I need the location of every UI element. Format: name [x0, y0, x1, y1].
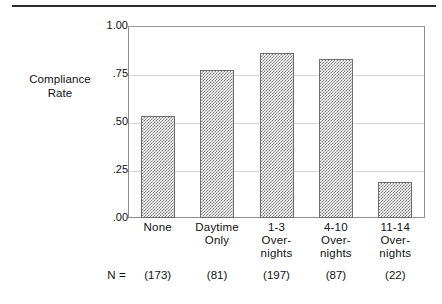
sample-size-value: (197) [247, 268, 306, 282]
x-axis-category-label-line: Over- [366, 234, 425, 247]
x-axis-category-label-line: Only [187, 234, 246, 247]
x-axis-category-label: 1-3Over-nights [247, 221, 306, 261]
bar [378, 182, 412, 218]
sample-size-value: (87) [306, 268, 365, 282]
sample-size-label: N = [84, 268, 126, 282]
bar [319, 59, 353, 218]
sample-size-values: (173)(81)(197)(87)(22) [128, 268, 425, 284]
y-axis-tick-label: .00 [92, 212, 128, 223]
x-axis-category-label-line: 1-3 [247, 221, 306, 234]
x-axis-category-label-line: Over- [306, 234, 365, 247]
x-axis-category-label-line: nights [306, 247, 365, 260]
sample-size-value: (22) [366, 268, 425, 282]
x-axis-category-label-line: Over- [247, 234, 306, 247]
bar [260, 53, 294, 218]
x-axis-category-label-line: 4-10 [306, 221, 365, 234]
chart-figure: Compliance Rate 1.00.75.50.25.00 NoneDay… [0, 0, 442, 304]
sample-size-value: (81) [187, 268, 246, 282]
x-axis-category-label: 4-10Over-nights [306, 221, 365, 261]
sample-size-row: N = (173)(81)(197)(87)(22) [0, 268, 442, 288]
bar [141, 116, 175, 218]
x-axis-category-label: DaytimeOnly [187, 221, 246, 247]
y-axis-ticks: 1.00.75.50.25.00 [84, 26, 128, 218]
x-axis-category-label-line: nights [247, 247, 306, 260]
bar [200, 70, 234, 218]
y-axis-tick-label: .75 [92, 68, 128, 79]
y-axis-tick-label: 1.00 [92, 20, 128, 31]
x-axis-category-label-line: nights [366, 247, 425, 260]
x-axis-category-label: 11-14Over-nights [366, 221, 425, 261]
x-axis-category-label: None [128, 221, 187, 234]
bar-series [128, 26, 425, 218]
x-axis-category-label-line: Daytime [187, 221, 246, 234]
x-axis-category-label-line: 11-14 [366, 221, 425, 234]
x-axis-category-labels: NoneDaytimeOnly1-3Over-nights4-10Over-ni… [128, 221, 425, 269]
sample-size-value: (173) [128, 268, 187, 282]
y-axis-tick-label: .25 [92, 164, 128, 175]
y-axis-tick-label: .50 [92, 116, 128, 127]
x-axis-category-label-line: None [128, 221, 187, 234]
top-rule-divider [12, 5, 436, 7]
